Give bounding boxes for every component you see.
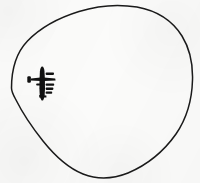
coverage-outline-path (12, 6, 193, 178)
aircraft-silhouette-group (27, 67, 55, 101)
coverage-outline-group (12, 6, 193, 178)
aircraft-wingtip-left (27, 76, 31, 83)
aircraft-wing-left (31, 78, 41, 81)
aircraft-tailplane (39, 95, 46, 98)
coverage-diagram-svg (0, 0, 200, 183)
aircraft-engine-nacelle-1 (46, 73, 54, 75)
aircraft-engine-nacelle-4 (46, 92, 53, 94)
aircraft-fuselage (39, 67, 45, 100)
aircraft-wing-right (44, 78, 56, 81)
aircraft-tail-fin (41, 97, 43, 100)
aircraft-engine-nacelle-2 (46, 83, 55, 85)
figure-root (0, 0, 200, 183)
aircraft-engine-nacelle-3 (46, 88, 54, 90)
aircraft-nacelle-left-stub (36, 83, 40, 85)
